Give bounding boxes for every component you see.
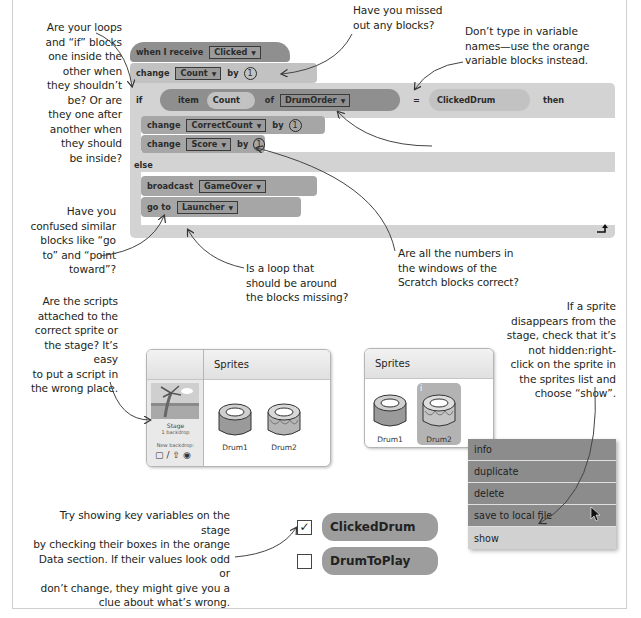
note-variable-names: Don’t type in variable names—use the ora… [465,24,635,68]
change-score-block[interactable]: change Score▼ by 1 [141,135,265,153]
menu-item-info[interactable]: info [468,439,616,461]
menu-item-duplicate[interactable]: duplicate [468,461,616,483]
drum2-label: Drum2 [259,443,309,452]
stage-backdrop-count: 1 backdrop [147,429,204,435]
stage-label: Stage [147,422,204,429]
drum2-sprite-icon [420,391,458,431]
sprites-header: Sprites [365,349,493,379]
equals-operator: = [413,95,420,105]
mouse-cursor-icon [590,506,602,522]
menu-item-show[interactable]: show [468,527,616,549]
variable-dropdown[interactable]: CorrectCount▼ [186,119,266,132]
loop-arrow-icon [596,224,610,234]
upload-icon[interactable]: ⇧ [173,450,181,460]
sprites-panel-with-stage: Stage 1 backdrop New backdrop: ▢ / ⇧ ◉ S… [146,349,331,467]
block-label: change [136,68,169,78]
else-label: else [134,160,153,170]
backdrop-tools: ▢ / ⇧ ◉ [155,450,191,460]
variable-dropdown[interactable]: Count▼ [175,67,221,80]
note-scripts-attached: Are the scripts attached to the correct … [18,294,118,396]
broadcast-block[interactable]: broadcast GameOver▼ [141,176,317,196]
then-label: then [543,95,564,105]
change-correctcount-block[interactable]: change CorrectCount▼ by 1 [141,116,325,134]
block-label: when I receive [136,47,203,57]
menu-item-delete[interactable]: delete [468,483,616,505]
note-confused-blocks: Have you confused similar blocks like “g… [20,204,116,277]
new-backdrop-label: New backdrop: [147,442,204,448]
paint-backdrop-icon[interactable]: ▢ [155,450,164,460]
drum1-label: Drum1 [365,435,415,444]
note-show-variables: Try showing key variables on the stage b… [30,508,230,610]
sprite-context-menu: info duplicate delete save to local file… [468,439,616,549]
drum2-selected-tile[interactable]: i Drum2 [417,383,461,445]
message-dropdown[interactable]: GameOver▼ [199,180,266,193]
sprites-header: Sprites [204,350,330,380]
stage-column[interactable]: Stage 1 backdrop New backdrop: ▢ / ⇧ ◉ [147,350,204,467]
note-hidden-sprite: If a sprite disappears from the stage, c… [490,299,616,401]
clickeddrum-checkbox[interactable]: ✓ [297,520,312,535]
variable-dropdown[interactable]: Score▼ [186,138,231,151]
drumtoplay-reporter[interactable]: DrumToPlay [322,547,438,575]
drumtoplay-checkbox[interactable] [297,554,312,569]
camera-icon[interactable]: ◉ [183,450,191,460]
variable-row-drumtoplay: DrumToPlay [297,547,438,575]
clickeddrum-reporter[interactable]: ClickedDrum [322,513,438,541]
brush-icon[interactable]: / [167,450,170,460]
drum1-sprite-icon[interactable] [216,400,254,440]
list-dropdown[interactable]: DrumOrder▼ [280,94,350,107]
stage-thumbnail[interactable] [151,383,199,419]
message-dropdown[interactable]: Clicked▼ [209,46,261,59]
sprites-panel: Sprites Drum1 i Drum2 [364,348,494,448]
count-variable-reporter[interactable]: Count [207,92,255,109]
drum2-label: Drum2 [414,435,464,444]
clicked-drum-reporter[interactable]: ClickedDrum [429,89,530,111]
variable-row-clickeddrum: ✓ ClickedDrum [297,513,438,541]
note-numbers: Are all the numbers in the windows of th… [398,246,548,290]
note-loops: Are your loops and “if” blocks one insid… [22,20,122,165]
go-to-block[interactable]: go to Launcher▼ [141,197,301,217]
when-i-receive-block[interactable]: when I receive Clicked▼ [130,42,290,62]
note-loop-missing: Is a loop that should be around the bloc… [246,261,366,305]
drum1-label: Drum1 [210,443,260,452]
number-input[interactable]: 1 [244,67,257,80]
drum2-sprite-icon[interactable] [265,400,303,440]
note-missed-blocks: Have you missed out any blocks? [353,3,473,32]
if-label: if [136,95,156,105]
number-input[interactable]: 1 [253,138,265,151]
item-of-list-reporter[interactable]: item Count of DrumOrder▼ [160,89,400,111]
drum1-sprite-icon[interactable] [371,391,409,431]
target-dropdown[interactable]: Launcher▼ [177,201,238,214]
change-count-block[interactable]: change Count▼ by 1 [130,63,317,83]
number-input[interactable]: 1 [289,119,302,132]
